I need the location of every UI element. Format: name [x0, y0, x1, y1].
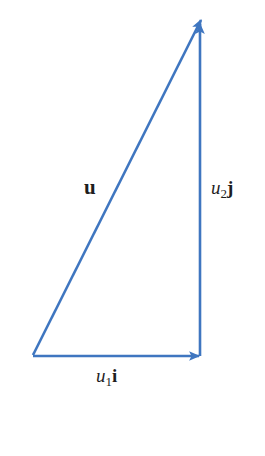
label-u2j-unit: j [227, 177, 233, 198]
label-vector-u2j: u2j [211, 178, 233, 200]
label-vector-u: u [84, 177, 96, 198]
figure-caption: 1 [0, 388, 265, 428]
label-u2j-var: u [211, 177, 221, 198]
label-u1i-var: u [96, 365, 106, 386]
figure-canvas: u u2j u1i 1 [0, 0, 265, 456]
label-vector-u1i: u1i [96, 366, 117, 388]
label-u1i-unit: i [112, 365, 117, 386]
label-u-text: u [84, 175, 96, 199]
vector-u-arrow [33, 20, 201, 355]
